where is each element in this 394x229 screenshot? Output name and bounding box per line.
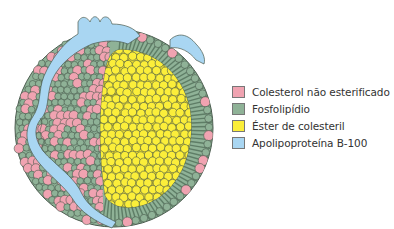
cholesterol-swatch — [232, 86, 245, 98]
legend-item-phospholipid: Fosfolipídio — [232, 100, 390, 117]
legend-item-apob100: Apolipoproteína B-100 — [232, 134, 390, 151]
legend-item-cholesteryl-ester: Éster de colesteril — [232, 117, 390, 134]
legend-label: Colesterol não esterificado — [252, 86, 390, 98]
apob100-swatch — [232, 137, 245, 149]
cholesteryl-ester-swatch — [232, 120, 245, 132]
legend-label: Apolipoproteína B-100 — [252, 137, 367, 149]
phospholipid-swatch — [232, 103, 245, 115]
legend-label: Éster de colesteril — [252, 120, 345, 132]
legend-item-cholesterol: Colesterol não esterificado — [232, 83, 390, 100]
legend-label: Fosfolipídio — [252, 103, 310, 115]
legend: Colesterol não esterificado Fosfolipídio… — [232, 83, 390, 151]
ldl-particle-diagram — [0, 0, 230, 229]
particle-sphere — [14, 17, 214, 228]
